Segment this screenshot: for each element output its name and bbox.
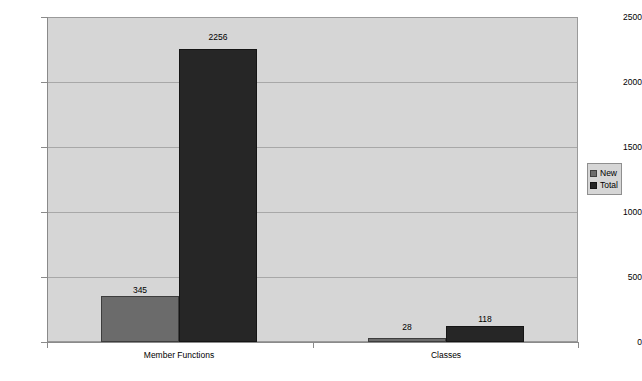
x-category-label-classes: Classes: [431, 350, 461, 360]
gridline-2000: [48, 82, 577, 83]
y-tick-500: [41, 277, 48, 278]
chart-legend: New Total: [587, 163, 622, 195]
bar-value-total-classes: 118: [478, 314, 492, 324]
y-tick-label-2000: 2000: [604, 78, 642, 87]
y-tick-1000: [41, 212, 48, 213]
bar-value-new-classes: 28: [402, 322, 411, 332]
bar-new-member-functions: [101, 296, 179, 342]
bar-total-classes: [446, 326, 524, 342]
y-tick-label-500: 500: [604, 273, 642, 282]
legend-label-total: Total: [600, 181, 618, 190]
y-tick-label-1500: 1500: [604, 143, 642, 152]
legend-item-new[interactable]: New: [590, 167, 618, 179]
bar-chart: 2500 2000 1500 1000 500 0 345 2256 28 11…: [0, 0, 642, 381]
bar-total-member-functions: [179, 49, 257, 342]
y-tick-label-1000: 1000: [604, 208, 642, 217]
gridline-500: [48, 277, 577, 278]
y-tick-1500: [41, 147, 48, 148]
y-tick-label-2500: 2500: [604, 13, 642, 22]
legend-swatch-new-icon: [590, 170, 597, 177]
x-tick-left: [47, 343, 48, 348]
y-tick-2000: [41, 82, 48, 83]
y-tick-label-0: 0: [604, 338, 642, 347]
bar-value-new-member-functions: 345: [133, 285, 147, 295]
legend-label-new: New: [600, 169, 617, 178]
y-tick-2500: [41, 17, 48, 18]
bar-value-total-member-functions: 2256: [209, 32, 228, 42]
x-category-label-member-functions: Member Functions: [144, 350, 214, 360]
legend-swatch-total-icon: [590, 182, 597, 189]
x-tick-right: [578, 343, 579, 348]
plot-area: [47, 17, 578, 342]
legend-item-total[interactable]: Total: [590, 179, 618, 191]
x-tick-middle: [313, 343, 314, 348]
gridline-1000: [48, 212, 577, 213]
gridline-1500: [48, 147, 577, 148]
y-axis-line: [47, 17, 48, 343]
